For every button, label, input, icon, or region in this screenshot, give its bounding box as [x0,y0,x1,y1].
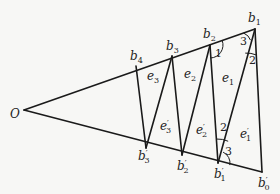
region-label-e1p: e′1 [240,126,251,143]
point-label-b1: b1 [248,11,261,27]
region-label-e3: e3 [147,69,159,85]
region-label-e2: e2 [184,67,196,83]
angle-2-bottom-arc [217,139,228,141]
point-label-b3: b3 [166,39,179,55]
zigzag-diagram: Ob1b2b3b4b′0b′1b′2b′3e1e2e3e′1e′2e′31322… [0,0,280,194]
angle-1-label: 1 [215,47,222,60]
region-label-e3p: e′3 [160,118,171,135]
angle-3-top-label: 3 [240,35,247,48]
region-label-e2p: e′2 [196,122,207,139]
segment-b2-b1p [210,45,218,163]
diagram-svg: Ob1b2b3b4b′0b′1b′2b′3e1e2e3e′1e′2e′31322… [0,0,280,194]
angle-2-top-label: 2 [249,54,256,67]
point-label-b4: b4 [130,49,143,65]
segment-b3-b2p [172,56,182,155]
point-label-b3p: b′3 [138,148,150,165]
point-label-b0p: b′0 [258,175,270,192]
angle-3-bottom-label: 3 [225,145,232,158]
region-label-e1: e1 [222,71,234,87]
segment-b1-b0p [255,29,262,172]
origin-label: O [10,107,20,121]
angle-2-bottom-label: 2 [220,121,227,134]
point-label-b2: b2 [203,27,216,43]
point-label-b2p: b′2 [177,158,189,175]
point-label-b1p: b′1 [214,166,226,183]
segment-b4-b3p [136,66,146,148]
